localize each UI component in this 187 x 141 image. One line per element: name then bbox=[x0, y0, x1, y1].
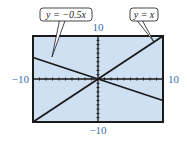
y-min-label: −10 bbox=[89, 124, 107, 136]
y-max-label: 10 bbox=[93, 21, 105, 33]
x-max-label: 10 bbox=[168, 73, 180, 85]
x-min-label: −10 bbox=[12, 73, 30, 85]
graphing-calculator-chart: 10 −10 −10 10 y = −0.5x y = x bbox=[0, 0, 187, 141]
callout-label: y = x bbox=[133, 9, 155, 20]
callout-label: y = −0.5x bbox=[45, 9, 86, 20]
